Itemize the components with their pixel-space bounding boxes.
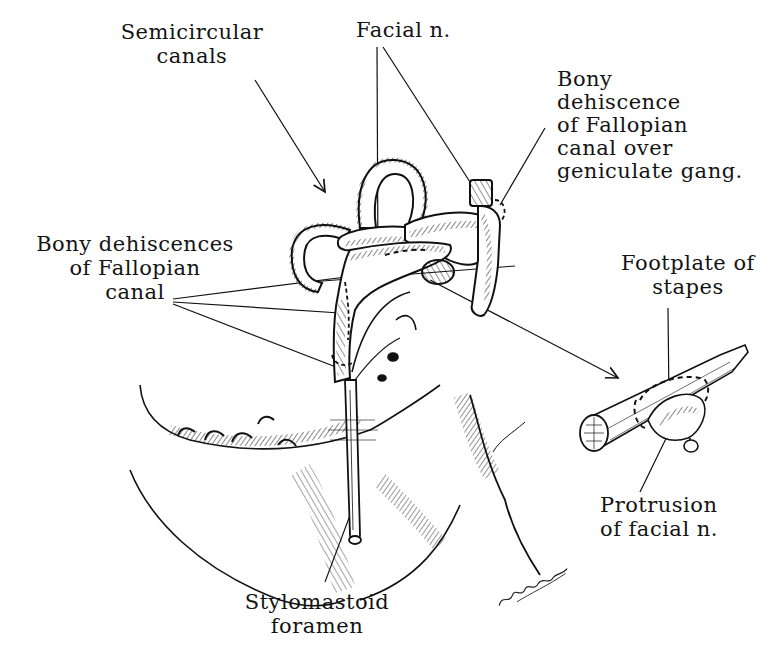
right-contour xyxy=(462,395,540,575)
label-stylomastoid-foramen: Stylomastoid foramen xyxy=(232,590,402,638)
label-bony-dehiscences: Bony dehiscences of Fallopian canal xyxy=(10,232,260,304)
inset-facial-nerve xyxy=(580,345,748,452)
leader-dehiscence-3 xyxy=(173,304,336,367)
mastoid-surface xyxy=(130,385,460,606)
canal-wall-arc xyxy=(352,292,416,381)
label-geniculate-dehiscence: Bony dehiscence of Fallopian canal over … xyxy=(557,68,743,183)
leader-to-inset xyxy=(430,280,618,378)
illustration-canvas: Semicircular canals Facial n. Bony dehis… xyxy=(0,0,784,646)
facial-nerve-exit xyxy=(328,380,378,544)
label-semicircular-canals: Semicircular canals xyxy=(92,20,292,68)
label-facial-n: Facial n. xyxy=(356,18,451,42)
leader-geniculate xyxy=(500,128,545,205)
label-footplate-of-stapes: Footplate of stapes xyxy=(598,251,778,299)
leader-semicircular-canals xyxy=(255,80,325,192)
label-protrusion-of-facial-n: Protrusion of facial n. xyxy=(600,493,718,541)
